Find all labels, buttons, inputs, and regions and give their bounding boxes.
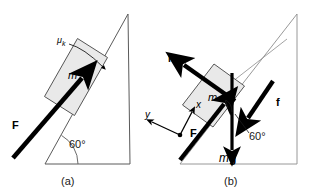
friction-coefficient-label-a: μk [57,36,65,47]
weight-mass-symbol: m [219,151,229,165]
mass-label-a: m [68,70,77,81]
panel-b-caption: (b) [224,176,237,187]
panel-a-caption: (a) [61,176,74,187]
friction-force-arrow-b [248,81,273,118]
weight-gravity-symbol: g [229,151,236,165]
panel-b-geometry [152,14,297,164]
diagram-canvas [0,0,315,196]
incline-angle-label-b: 60° [249,131,266,142]
axis-y-arrow-b [152,122,180,135]
mu-subscript: k [62,40,66,47]
applied-force-label-a: F [12,120,19,131]
axis-y-label-b: y [145,110,150,120]
axis-x-label-b: x [196,100,201,110]
friction-force-label-b: f [276,97,280,108]
applied-force-label-b: F [190,128,197,139]
weight-force-label-b: mg [219,152,236,164]
incline-angle-label-a: 60° [69,139,86,150]
normal-force-label-b: N [168,53,176,64]
mass-label-b: m [208,92,217,103]
physics-free-body-diagram: μk m F 60° (a) N m f F x y 60° mg (b) [0,0,315,196]
